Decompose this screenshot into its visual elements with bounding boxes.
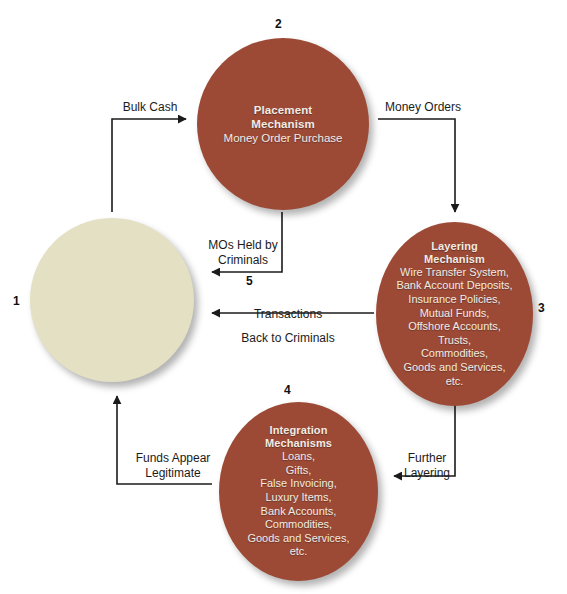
step-number-3: 3 [538,302,545,314]
arrow-label-funds-appear-line1: Funds Appear [130,451,216,466]
node-integration-title-line2: Mechanisms [265,437,332,450]
node-layering-item: Wire Transfer System, [400,266,509,280]
node-integration-item: Luxury Items, [265,491,331,505]
node-layering[interactable]: Layering Mechanism Wire Transfer System,… [376,222,533,406]
diagram-canvas: Placement Mechanism Money Order Purchase… [0,0,567,594]
arrow-label-funds-appear: Funds Appear Legitimate [130,451,216,480]
arrow-money-orders [378,119,455,212]
node-integration-item: Goods and Services, [247,532,349,546]
arrow-label-transactions: Transactions Back to Criminals [228,307,348,345]
node-layering-item: Bank Account Deposits, [396,279,512,293]
arrow-label-mos-held-line1: MOs Held by [193,238,293,253]
arrow-label-funds-appear-line2: Legitimate [130,466,216,481]
node-layering-item: Commodities, [421,347,488,361]
node-integration-item: False Invoicing, [260,477,336,491]
arrow-label-mos-held-line2: Criminals [193,253,293,268]
arrow-label-bulk-cash-line1: Bulk Cash [104,100,196,115]
node-layering-title-line1: Layering [431,240,478,253]
node-placement-title-line2: Mechanism [251,117,315,131]
arrow-label-bulk-cash: Bulk Cash [104,100,196,115]
node-layering-item: Goods and Services, [403,361,505,375]
arrow-bulk-cash [112,119,186,212]
node-integration-item: Bank Accounts, [261,505,337,519]
node-integration-item: Gifts, [286,464,312,478]
node-layering-item: Insurance Policies, [408,293,500,307]
arrow-label-money-orders: Money Orders [373,100,473,115]
node-integration-item: Commodities, [265,518,332,532]
arrow-label-mos-held: MOs Held by Criminals [193,238,293,267]
node-integration[interactable]: Integration Mechanisms Loans, Gifts, Fal… [219,402,378,581]
node-layering-title-line2: Mechanism [424,253,485,266]
step-number-1: 1 [13,295,20,307]
node-placement-title-line1: Placement [254,103,312,117]
node-layering-item: Trusts, [438,334,471,348]
arrow-label-further-layering-line2: Layering [394,466,460,481]
node-layering-item: etc. [446,375,464,389]
arrow-label-transactions-line1: Transactions [228,307,348,322]
step-number-4: 4 [284,384,291,396]
step-number-2: 2 [275,18,282,30]
node-layering-item: Mutual Funds, [420,307,490,321]
node-placement[interactable]: Placement Mechanism Money Order Purchase [197,38,369,210]
node-integration-item: etc. [290,545,308,559]
arrow-label-further-layering: Further Layering [394,451,460,480]
node-integration-title-line1: Integration [270,424,328,437]
node-integration-item: Loans, [282,450,315,464]
arrow-label-transactions-line2: Back to Criminals [228,331,348,346]
node-layering-item: Offshore Accounts, [408,320,501,334]
node-criminals[interactable] [30,218,194,382]
arrow-label-further-layering-line1: Further [394,451,460,466]
node-placement-item: Money Order Purchase [224,131,343,145]
arrow-label-money-orders-line1: Money Orders [373,100,473,115]
step-number-5: 5 [246,275,253,287]
